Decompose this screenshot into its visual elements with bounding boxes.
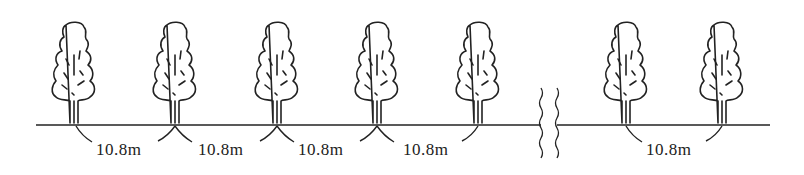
- tree-6: [604, 22, 646, 123]
- spacing-arcs: [76, 126, 722, 142]
- spacing-label-1: 10.8m: [96, 140, 141, 160]
- tree-3: [255, 22, 297, 123]
- spacing-label-3: 10.8m: [298, 140, 343, 160]
- break-mark-left: [540, 88, 543, 158]
- break-mark-right: [556, 88, 559, 158]
- tree-1: [52, 22, 94, 123]
- spacing-label-4: 10.8m: [403, 140, 448, 160]
- spacing-label-5: 10.8m: [646, 140, 691, 160]
- tree-4: [355, 22, 397, 123]
- tree-2: [153, 22, 195, 123]
- tree-5: [456, 22, 498, 123]
- tree-7: [700, 22, 742, 123]
- spacing-label-2: 10.8m: [198, 140, 243, 160]
